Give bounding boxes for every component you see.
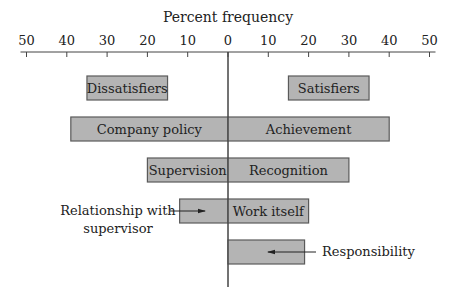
annotation-label: Responsibility [322, 244, 416, 259]
x-tick-label: 30 [341, 33, 358, 48]
bar-label: Work itself [233, 204, 305, 219]
axis-title: Percent frequency [163, 9, 293, 25]
x-tick-label: 20 [139, 33, 156, 48]
x-tick-label: 0 [224, 33, 232, 48]
bar-label: Recognition [249, 163, 329, 178]
x-tick-label: 50 [18, 33, 35, 48]
x-tick-label: 40 [381, 33, 398, 48]
bar-label: Company policy [97, 122, 203, 137]
annotation-label: Relationship with [60, 203, 176, 218]
bar-label: Supervision [149, 163, 228, 178]
x-tick-label: 40 [59, 33, 76, 48]
legend-satisfiers-label: Satisfiers [298, 81, 360, 96]
legend-dissatisfiers-label: Dissatisfiers [87, 81, 168, 96]
annotation-label: supervisor [83, 221, 153, 236]
x-tick-label: 50 [421, 33, 438, 48]
bar-label: Achievement [265, 122, 352, 137]
x-tick-label: 10 [179, 33, 196, 48]
x-tick-label: 30 [99, 33, 116, 48]
diverging-bar-chart: Percent frequency 504030201001020304050 … [0, 0, 455, 302]
x-tick-label: 20 [300, 33, 317, 48]
x-tick-label: 10 [260, 33, 277, 48]
